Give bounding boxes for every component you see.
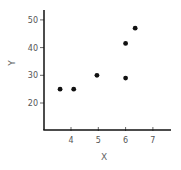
data-point: [123, 41, 128, 46]
scatter-chart: 20304050 4567 X Y: [0, 0, 181, 170]
y-axis-ticks: 20304050: [28, 16, 44, 108]
x-tick-label: 6: [123, 136, 128, 145]
data-point: [95, 73, 100, 78]
y-tick-label: 30: [28, 71, 38, 80]
y-tick-label: 20: [28, 99, 38, 108]
x-axis-label: X: [101, 152, 107, 162]
data-points: [58, 26, 138, 92]
y-tick-label: 40: [28, 44, 38, 53]
data-point: [71, 87, 76, 92]
y-axis-label: Y: [7, 60, 17, 67]
x-tick-label: 5: [96, 136, 101, 145]
data-point: [133, 26, 138, 31]
x-tick-label: 4: [68, 136, 73, 145]
data-point: [123, 76, 128, 81]
x-tick-label: 7: [150, 136, 155, 145]
y-tick-label: 50: [28, 16, 38, 25]
data-point: [58, 87, 63, 92]
